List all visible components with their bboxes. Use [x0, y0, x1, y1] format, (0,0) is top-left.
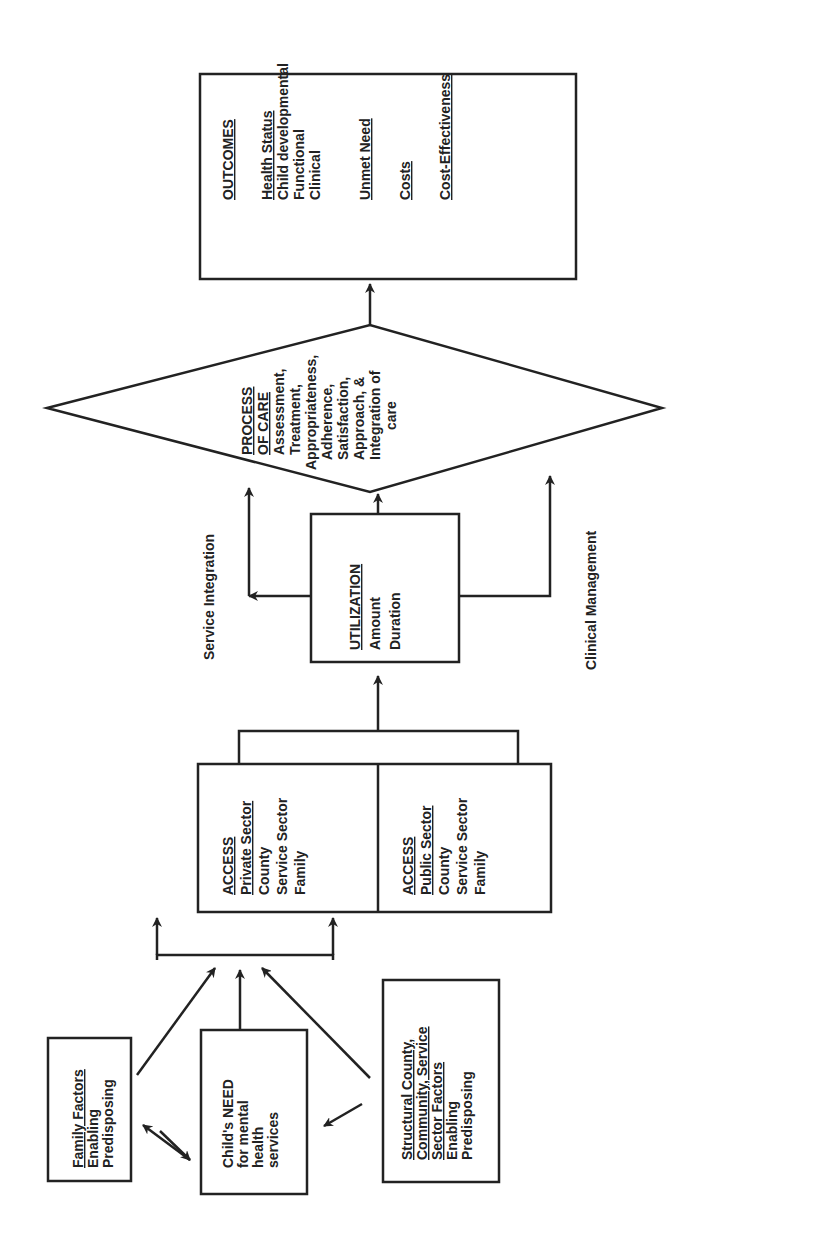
process-title-2: OF CARE	[255, 392, 271, 455]
functional: Functional	[291, 129, 307, 200]
access-line: County	[256, 847, 272, 895]
child-need-line: Child's NEED	[220, 1079, 236, 1168]
utilization-line: Amount	[367, 597, 383, 650]
cost-effectiveness: Cost-Effectiveness	[437, 74, 453, 200]
structural-title: Sector Factors	[429, 1062, 445, 1160]
access-public-subtitle: Public Sector	[418, 805, 434, 895]
diagram-text: OUTCOMES Health Status Child development…	[0, 0, 817, 1236]
access-line: Family	[472, 850, 488, 895]
family-line: Enabling	[85, 1109, 101, 1168]
child-developmental: Child developmental	[275, 63, 291, 200]
process-line: Appropriateness,	[303, 355, 319, 470]
structural-line: Predisposing	[459, 1071, 475, 1160]
service-integration-label: Service Integration	[201, 534, 217, 660]
access-line: Family	[292, 850, 308, 895]
process-line: Adherence,	[319, 384, 335, 460]
access-private-subtitle: Private Sector	[238, 800, 254, 895]
structural-line: Enabling	[444, 1101, 460, 1160]
access-public-title: ACCESS	[400, 837, 416, 895]
process-line: Treatment,	[287, 384, 303, 455]
access-private-title: ACCESS	[220, 837, 236, 895]
process-line: Satisfaction,	[335, 377, 351, 460]
child-need-line: health	[250, 1127, 266, 1168]
access-line: County	[436, 847, 452, 895]
process-line: care	[383, 401, 399, 430]
access-line: Service Sector	[274, 797, 290, 895]
child-need-line: for mental	[235, 1100, 251, 1168]
family-line: Predisposing	[100, 1079, 116, 1168]
utilization-line: Duration	[387, 592, 403, 650]
structural-title: Community, Service	[414, 1026, 430, 1160]
outcomes-title: OUTCOMES	[220, 119, 236, 200]
clinical: Clinical	[307, 150, 323, 200]
structural-title: Structural County,	[399, 1039, 415, 1160]
diagram-canvas: OUTCOMES Health Status Child development…	[0, 0, 817, 1236]
process-line: Integration of	[367, 370, 383, 460]
family-factors-title: Family Factors	[70, 1069, 86, 1168]
access-line: Service Sector	[454, 797, 470, 895]
process-line: Assessment,	[271, 369, 287, 455]
child-need-line: services	[265, 1112, 281, 1168]
health-status-label: Health Status	[259, 110, 275, 200]
process-line: Approach, &	[351, 377, 367, 460]
process-title-1: PROCESS	[239, 387, 255, 455]
utilization-title: UTILIZATION	[347, 564, 363, 650]
unmet-need: Unmet Need	[357, 118, 373, 200]
costs: Costs	[397, 161, 413, 200]
clinical-management-label: Clinical Management	[583, 530, 599, 670]
